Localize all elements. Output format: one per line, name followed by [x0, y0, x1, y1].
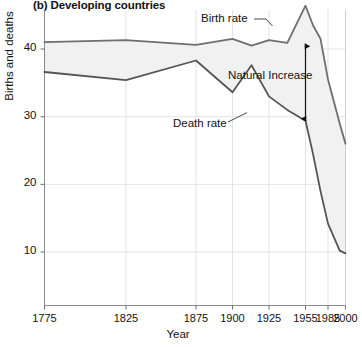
x-tick-label: 1775 — [27, 312, 63, 324]
death-rate-label: Death rate — [173, 117, 227, 129]
y-tick-label: 30 — [11, 109, 37, 121]
y-tick-marks — [41, 49, 45, 252]
x-tick-label: 2000 — [328, 312, 362, 324]
x-tick-label: 1925 — [251, 312, 287, 324]
x-tick-label: 1900 — [215, 312, 251, 324]
x-tick-label: 1825 — [108, 312, 144, 324]
x-tick-marks — [45, 306, 346, 310]
birth-rate-leader-line — [254, 19, 273, 26]
natural-increase-band — [45, 6, 346, 254]
y-tick-label: 40 — [11, 41, 37, 53]
y-tick-label: 20 — [11, 176, 37, 188]
natural-increase-label: Natural Increase — [228, 69, 312, 81]
y-tick-label: 10 — [11, 244, 37, 256]
birth-rate-label: Birth rate — [201, 12, 248, 24]
death-rate-leader-line — [228, 113, 247, 122]
x-tick-label: 1875 — [178, 312, 214, 324]
